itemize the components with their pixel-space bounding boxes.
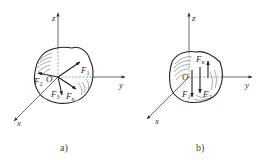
panel-b: z y x Fn O F1 F2 b) [147, 13, 252, 154]
origin-label: O [46, 74, 53, 84]
y-axis-label: y [118, 80, 123, 90]
z-axis-label: z [191, 13, 196, 23]
y-axis-label: y [244, 80, 249, 90]
rigid-body [34, 47, 93, 103]
force-system-diagram: z y x F1 F2 O F3 Fn a) [0, 0, 262, 160]
x-axis-label: x [154, 116, 159, 126]
z-axis-label: z [51, 13, 56, 23]
caption-a: a) [60, 142, 68, 154]
caption-b: b) [196, 142, 204, 154]
panel-a: z y x F1 F2 O F3 Fn a) [14, 13, 125, 154]
x-axis-label: x [16, 118, 21, 128]
origin-label: O [182, 72, 189, 82]
